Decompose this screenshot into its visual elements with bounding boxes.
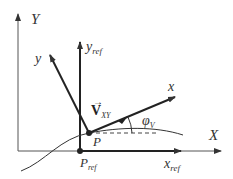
label-ref-x: xref bbox=[163, 156, 181, 173]
body-y-axis bbox=[50, 55, 89, 133]
label-angle: φV bbox=[142, 113, 156, 130]
trajectory-curve bbox=[21, 128, 183, 171]
point-p bbox=[86, 130, 92, 136]
velocity-vector-mark: → bbox=[93, 96, 103, 107]
label-point-p: P bbox=[92, 134, 101, 149]
point-pref bbox=[77, 148, 83, 154]
label-global-x: X bbox=[208, 127, 219, 143]
angle-arc bbox=[128, 117, 132, 133]
label-body-y: y bbox=[33, 51, 42, 66]
label-body-x: x bbox=[167, 79, 175, 94]
label-ref-y: yref bbox=[84, 39, 103, 56]
label-point-pref: Pref bbox=[79, 155, 98, 172]
coordinate-diagram: Y X yref xref y x VXY → φV P Pref bbox=[0, 0, 233, 179]
label-global-y: Y bbox=[31, 11, 41, 27]
